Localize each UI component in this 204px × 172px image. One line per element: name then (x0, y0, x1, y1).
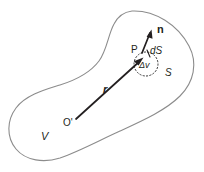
point-p-label: P (131, 45, 138, 55)
position-vector-arrow (76, 58, 144, 120)
surface-label: S (165, 68, 172, 78)
vector-calculus-figure: n P dS Δv S r O' V (0, 0, 204, 172)
origin-label: O' (63, 118, 73, 128)
position-vector-label: r (103, 84, 107, 95)
normal-vector-label: n (157, 24, 164, 35)
volume-label: V (41, 131, 48, 142)
figure-canvas (0, 0, 204, 172)
volume-element-label: Δv (139, 61, 150, 70)
volume-boundary-surface (9, 11, 194, 161)
surface-element-label: dS (150, 46, 162, 56)
